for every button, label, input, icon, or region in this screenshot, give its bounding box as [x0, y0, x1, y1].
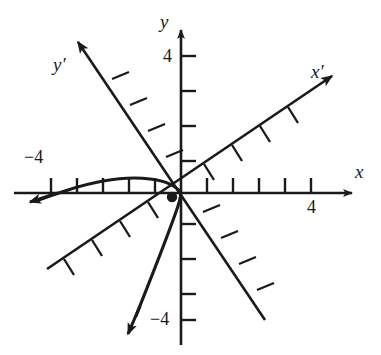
vertex-point-marker [167, 192, 177, 202]
curve-arrow-lower [128, 306, 140, 334]
y-prime-axis-ticks [112, 72, 274, 290]
x-prime-axis-line [47, 76, 332, 269]
curve-arrow-left [30, 193, 58, 202]
figure-canvas: y x x′ y′ 4 −4 4 −4 [0, 0, 381, 355]
parabola-path [36, 178, 181, 316]
x-axis-tick-label-4: 4 [307, 198, 316, 216]
y-prime-axis-label: y′ [53, 55, 66, 74]
x-prime-axis [47, 76, 332, 275]
y-axis-tick-label-4: 4 [163, 47, 172, 65]
x-axis-label: x [355, 162, 363, 181]
y-axis-tick-label-minus-4: −4 [150, 310, 169, 328]
x-prime-axis-label: x′ [311, 62, 324, 81]
y-axis [181, 30, 196, 345]
y-axis-ticks [181, 56, 196, 320]
y-axis-label: y [160, 12, 168, 31]
x-axis-tick-label-minus-4: −4 [24, 148, 43, 166]
